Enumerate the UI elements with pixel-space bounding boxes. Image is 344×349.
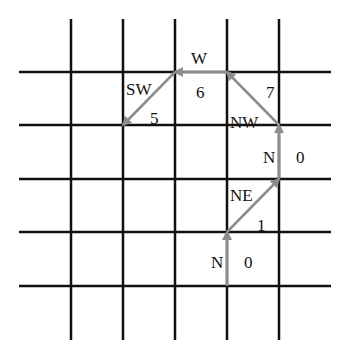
diagram-svg: N0NE1N0NW7W6SW5 bbox=[0, 0, 344, 349]
direction-labels: N0NE1N0NW7W6SW5 bbox=[126, 49, 305, 272]
code-label-3: 7 bbox=[266, 83, 275, 102]
direction-label-3: NW bbox=[230, 113, 259, 132]
code-label-5: 5 bbox=[150, 109, 159, 128]
grid bbox=[19, 19, 331, 340]
direction-label-4: W bbox=[191, 49, 208, 68]
direction-label-5: SW bbox=[126, 80, 152, 99]
chain-code-diagram: N0NE1N0NW7W6SW5 bbox=[0, 0, 344, 349]
code-label-1: 1 bbox=[257, 216, 266, 235]
code-label-0: 0 bbox=[244, 253, 253, 272]
code-label-4: 6 bbox=[196, 83, 205, 102]
direction-label-0: N bbox=[211, 253, 223, 272]
direction-label-1: NE bbox=[230, 186, 253, 205]
code-label-2: 0 bbox=[296, 148, 305, 167]
direction-label-2: N bbox=[263, 148, 275, 167]
